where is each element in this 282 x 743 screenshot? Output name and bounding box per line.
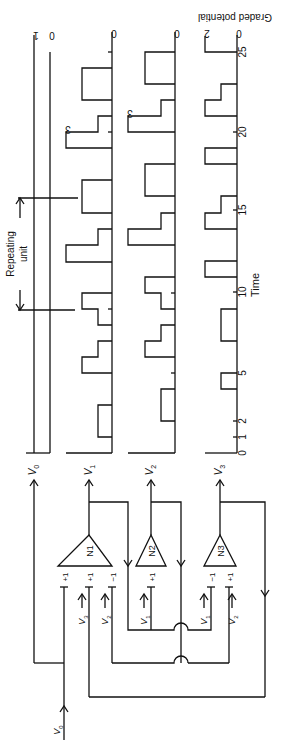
svg-text:N3: N3 [216, 545, 226, 557]
svg-text:5: 5 [237, 370, 248, 376]
v3-level-0-label: 0 [236, 28, 242, 39]
svg-text:V0: V0 [27, 465, 40, 476]
svg-text:N2: N2 [147, 545, 157, 557]
svg-text:Graded potential: Graded potential [198, 12, 272, 23]
circuit [30, 480, 269, 740]
repeating-label: Repeating [5, 231, 16, 277]
input-labels: V3 V2 V1 V1 V2 V0 [52, 615, 239, 735]
svg-text:15: 15 [237, 204, 248, 216]
svg-text:0: 0 [174, 28, 180, 39]
svg-text:+1: +1 [61, 572, 70, 582]
output-labels: V0 V1 V2 V3 [27, 465, 226, 476]
v2-trace [128, 32, 175, 453]
svg-text:V3: V3 [213, 465, 226, 476]
v0-level-1-label: 1 [33, 30, 39, 41]
svg-text:1: 1 [33, 30, 39, 41]
svg-text:V3: V3 [77, 615, 89, 625]
v1-level-0-label: 0 [111, 28, 117, 39]
svg-text:+1: +1 [86, 572, 95, 582]
svg-text:V0: V0 [52, 725, 64, 735]
n2-label: N2 [147, 545, 157, 557]
svg-text:2: 2 [237, 418, 248, 424]
repeating-unit-annotation: Repeating unit [5, 198, 78, 310]
v1-trace [66, 32, 112, 453]
svg-text:25: 25 [237, 46, 248, 58]
svg-text:0: 0 [111, 28, 117, 39]
graded-potential-label: Graded potential [198, 12, 272, 23]
svg-text:V1: V1 [83, 465, 96, 476]
svg-text:2: 2 [204, 28, 210, 39]
time-axis-label: Time [249, 273, 261, 297]
v3-trace [205, 35, 237, 453]
v0-level-0-label: 0 [49, 30, 55, 41]
v1-peak-label: 3 [65, 124, 71, 135]
svg-text:N1: N1 [85, 545, 95, 557]
svg-text:0: 0 [236, 28, 242, 39]
oscillator-network-figure: 1 0 Repeating unit 0 [0, 0, 282, 743]
weight-labels: +1 +1 −1 +1 −1 +1 [61, 572, 235, 582]
v2-peak-label: 3 [127, 108, 133, 119]
svg-text:0: 0 [237, 450, 248, 456]
svg-text:+1: +1 [226, 572, 235, 582]
svg-text:−1: −1 [208, 572, 217, 582]
svg-text:V1: V1 [139, 615, 151, 625]
svg-text:V2: V2 [144, 465, 157, 476]
time-axis: 0 1 2 5 10 15 20 25 Time [237, 46, 261, 456]
svg-text:3: 3 [65, 124, 71, 135]
v0-trace [26, 35, 50, 453]
svg-text:0: 0 [49, 30, 55, 41]
unit-label: unit [18, 246, 29, 262]
n1-label: N1 [85, 545, 95, 557]
svg-text:10: 10 [237, 286, 248, 298]
n3-label: N3 [216, 545, 226, 557]
svg-text:1: 1 [237, 434, 248, 440]
svg-text:V2: V2 [100, 615, 112, 625]
svg-text:−1: −1 [109, 572, 118, 582]
svg-text:+1: +1 [148, 572, 157, 582]
svg-text:V1: V1 [199, 615, 211, 625]
svg-text:3: 3 [127, 108, 133, 119]
v3-level-2-label: 2 [204, 28, 210, 39]
v2-level-0-label: 0 [174, 28, 180, 39]
svg-text:20: 20 [237, 126, 248, 138]
